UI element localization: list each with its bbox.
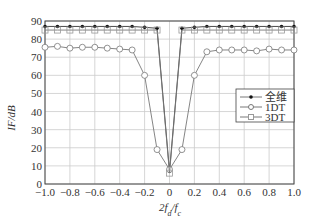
y-axis-label: IF/dB <box>5 105 17 132</box>
x-tick-label: 0 <box>167 186 173 198</box>
line-chart: −1.0−0.8−0.6−0.4−0.200.20.40.60.81.00102… <box>0 0 314 217</box>
y-tick-label: 50 <box>31 87 43 99</box>
y-tick-label: 20 <box>31 142 43 154</box>
x-tick-label: 0.8 <box>262 186 276 198</box>
y-tick-label: 60 <box>31 69 43 81</box>
x-tick-label: 0.4 <box>212 186 226 198</box>
x-tick-label: −0.2 <box>135 186 155 198</box>
x-tick-label: 0.6 <box>237 186 251 198</box>
y-tick-label: 40 <box>31 106 43 118</box>
y-tick-label: 70 <box>31 51 43 63</box>
x-tick-label: 0.2 <box>188 186 202 198</box>
y-tick-label: 10 <box>31 160 43 172</box>
legend: 全维1DT3DT <box>236 89 294 123</box>
y-tick-label: 30 <box>31 124 43 136</box>
x-tick-label: −0.8 <box>60 186 80 198</box>
svg-text:3DT: 3DT <box>265 111 285 123</box>
x-axis-label: 2fd/fc <box>159 201 182 217</box>
y-tick-label: 0 <box>37 178 43 190</box>
x-tick-label: 1.0 <box>287 186 301 198</box>
x-tick-label: −0.6 <box>85 186 105 198</box>
y-tick-label: 90 <box>31 15 43 27</box>
y-tick-label: 80 <box>31 33 43 45</box>
x-tick-label: −0.4 <box>110 186 130 198</box>
